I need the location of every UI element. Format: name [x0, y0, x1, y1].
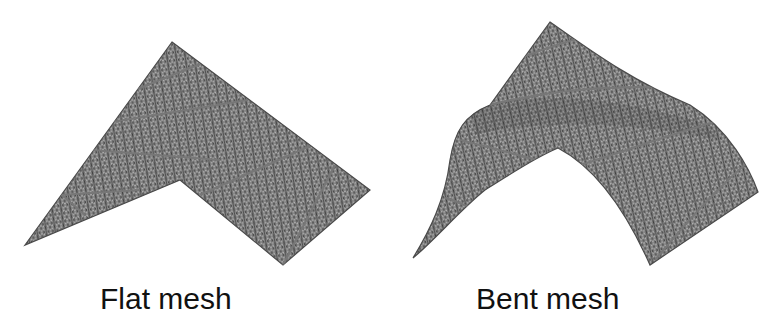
flat-mesh-panel: Flat mesh [0, 0, 390, 333]
flat-mesh-caption: Flat mesh [100, 282, 232, 316]
bent-mesh-panel: Bent mesh [390, 0, 779, 333]
mesh-comparison-figure: Flat mesh [0, 0, 779, 333]
bent-mesh-caption: Bent mesh [476, 282, 619, 316]
